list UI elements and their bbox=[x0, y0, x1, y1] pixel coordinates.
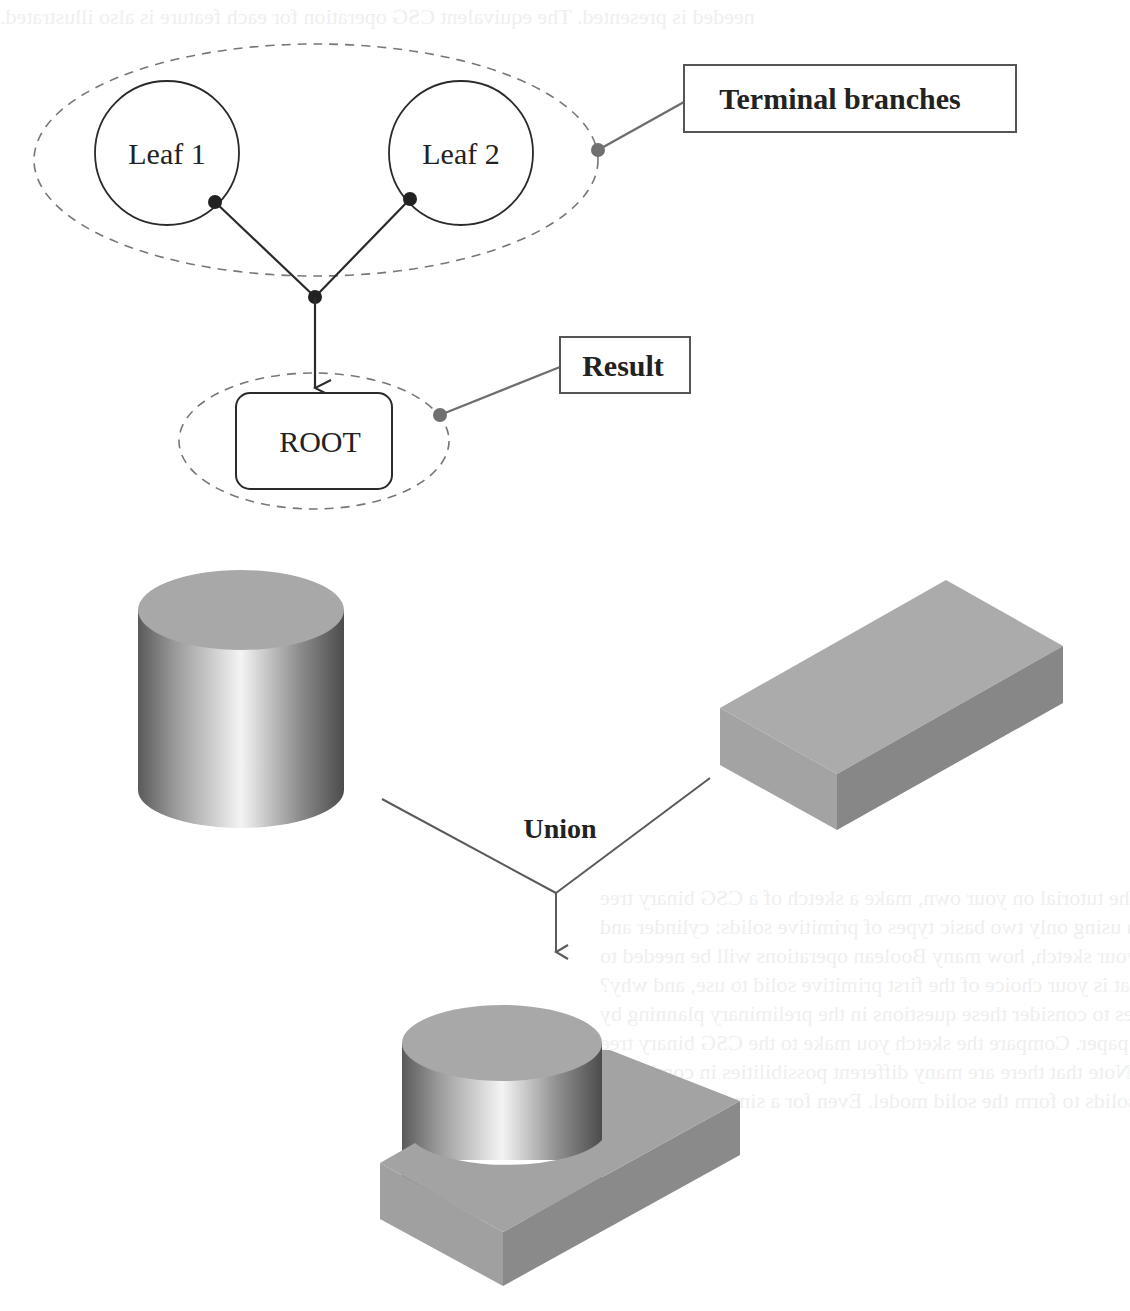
union-example: Union bbox=[138, 570, 1063, 1286]
leaf2-branch-line bbox=[315, 199, 410, 297]
result-callout-leader bbox=[440, 367, 560, 415]
leaf1-connector-dot bbox=[208, 195, 222, 209]
terminal-callout-dot bbox=[591, 143, 605, 157]
csg-binary-tree: Leaf 1 Leaf 2 ROOT Terminal branches Res… bbox=[34, 44, 1016, 509]
root-label: ROOT bbox=[279, 425, 361, 458]
leaf2-connector-dot bbox=[403, 192, 417, 206]
result-callout-label: Result bbox=[582, 349, 664, 382]
terminal-branches-group-outline bbox=[34, 44, 598, 276]
cylinder-primitive bbox=[138, 570, 344, 828]
csg-diagram: Leaf 1 Leaf 2 ROOT Terminal branches Res… bbox=[0, 0, 1130, 1311]
leaf2-label: Leaf 2 bbox=[422, 137, 499, 170]
union-result-solid bbox=[380, 1005, 740, 1286]
terminal-callout-leader bbox=[598, 102, 684, 150]
union-operation-label: Union bbox=[523, 813, 597, 844]
terminal-callout-label: Terminal branches bbox=[719, 82, 960, 115]
leaf1-branch-line bbox=[215, 202, 315, 297]
result-callout-dot bbox=[433, 408, 447, 422]
leaf1-label: Leaf 1 bbox=[128, 137, 205, 170]
block-primitive bbox=[720, 580, 1063, 830]
